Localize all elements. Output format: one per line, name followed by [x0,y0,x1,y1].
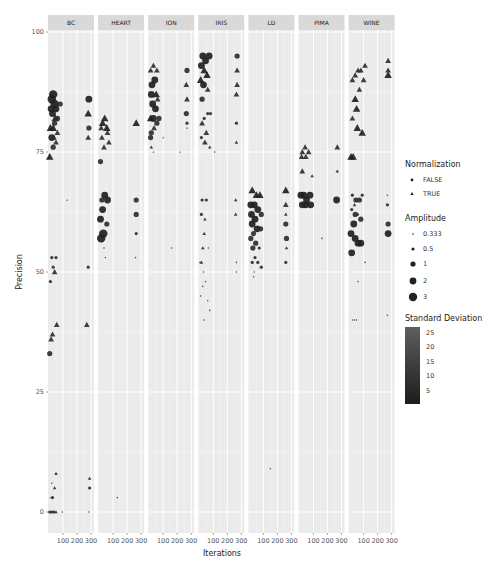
y-tick-label: 25 [36,388,44,396]
x-axis: 1002003001002003001002003001002003001002… [57,533,398,545]
facet-strip-label: PIMA [314,19,330,26]
x-tick-label: 200 [71,537,83,545]
facet-strip-label: ION [166,19,177,26]
y-tick-label: 100 [32,28,44,36]
facet-panel-wine: WINE [347,15,394,533]
legend-size-icon [409,293,417,301]
legend-sd-colorbar [405,327,420,404]
legend-amplitude-title: Amplitude [405,214,446,223]
legend-amplitude-05: 0.5 [423,245,433,253]
panel-background [98,30,144,533]
facet-strip-label: LD [267,19,275,26]
x-tick-label: 200 [321,537,333,545]
facet-panel-pima: PIMA [298,15,345,533]
legend-size-icon [410,261,415,266]
facet-panel-ld: LD [247,15,294,533]
x-tick-label: 200 [221,537,233,545]
x-tick-label: 200 [371,537,383,545]
x-tick-label: 200 [171,537,183,545]
facet-panel-iris: IRIS [197,15,244,533]
legend-amplitude-3: 3 [423,293,427,301]
x-tick-label: 300 [385,537,397,545]
facet-panel-ion: ION [147,15,194,533]
legend-amplitude-0333: 0.333 [423,230,442,238]
x-tick-label: 100 [307,537,319,545]
panel-background [299,30,345,533]
legend-standard-deviation: Standard Deviation 25 20 15 10 5 [405,314,482,404]
legend-size-icon [411,247,414,250]
facet-strip-label: HEART [111,19,131,26]
x-tick-label: 200 [121,537,133,545]
y-tick-label: 75 [36,148,44,156]
legend-normalization-false: FALSE [423,176,442,184]
x-tick-label: 300 [135,537,147,545]
facet-panel-bc: BC [46,15,94,533]
y-axis: 0255075100 [32,28,48,516]
legend-normalization-true: TRUE [422,190,440,198]
faceted-scatter-chart: BCHEARTIONIRISLDPIMAWINE 0255075100 1002… [0,0,487,574]
legend-normalization: Normalization FALSE TRUE [405,160,461,198]
legend-sd-10: 10 [426,372,434,380]
x-tick-label: 100 [157,537,169,545]
legend-sd-15: 15 [426,358,434,366]
panel-background [349,30,395,533]
y-tick-label: 50 [36,268,44,276]
x-tick-label: 100 [207,537,219,545]
legend-size-icon [410,278,417,285]
y-axis-title: Precision [15,254,24,290]
x-tick-label: 100 [357,537,369,545]
panel-background [248,30,294,533]
legend-sd-20: 20 [426,343,434,351]
x-tick-label: 200 [271,537,283,545]
x-tick-label: 300 [335,537,347,545]
legend-triangle-icon [410,192,413,195]
facet-strip-label: WINE [364,19,380,26]
facet-panels: BCHEARTIONIRISLDPIMAWINE [46,15,395,533]
x-tick-label: 100 [107,537,119,545]
x-tick-label: 100 [257,537,269,545]
x-tick-label: 300 [185,537,197,545]
legend-amplitude-2: 2 [423,277,427,285]
facet-panel-heart: HEART [97,15,144,533]
x-tick-label: 300 [285,537,297,545]
facet-strip-label: IRIS [216,19,228,26]
legend-amplitude: Amplitude 0.333 0.5 1 2 3 [405,214,446,301]
legend-sd-25: 25 [426,329,434,337]
legend-amplitude-1: 1 [423,260,427,268]
facet-strip-label: BC [67,19,75,26]
legend-sd-5: 5 [426,387,430,395]
legend-normalization-title: Normalization [405,160,461,169]
x-tick-label: 100 [57,537,69,545]
x-tick-label: 300 [235,537,247,545]
y-tick-label: 0 [40,508,44,516]
legend-sd-title: Standard Deviation [405,314,482,323]
x-axis-title: Iterations [203,549,241,558]
legend-size-icon [412,233,414,235]
legend-circle-icon [411,179,414,182]
x-tick-label: 300 [85,537,97,545]
